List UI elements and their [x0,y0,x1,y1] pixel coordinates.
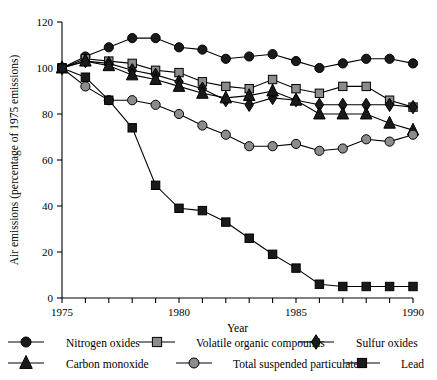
legend-item-label: Total suspended particulates [233,358,364,371]
data-point-marker [175,204,183,212]
legend-marker-icon [189,358,199,368]
data-point-marker [151,181,159,189]
y-axis-title: Air emissions (percentage of 1975 emissi… [8,55,21,266]
x-tick-label: 1975 [51,306,74,318]
data-point-marker [314,107,326,119]
data-point-marker [128,34,137,43]
legend-item-carbon-monoxide: Carbon monoxide [8,356,149,370]
legend-marker-icon [152,337,161,346]
y-tick-label: 80 [42,108,54,120]
legend-item-label: Sulfur oxides [356,337,418,349]
data-point-marker [338,59,347,68]
series-carbon-monoxide [56,54,419,135]
series-lead [58,64,417,291]
y-tick-label: 0 [48,292,54,304]
x-axis-ticks: 1975198019851990 [51,298,425,318]
legend-item-label: Lead [401,358,424,370]
y-tick-label: 60 [42,154,54,166]
data-point-marker [221,54,230,63]
data-point-marker [151,34,160,43]
chart-axes [62,22,413,298]
y-tick-label: 20 [42,246,54,258]
data-point-marker [339,282,347,290]
data-point-marker [384,116,396,128]
data-point-marker [292,85,300,93]
data-point-marker [385,54,394,63]
emissions-chart-figure: 0204060801001201975198019851990YearAir e… [0,0,437,380]
data-point-marker [174,109,183,118]
data-point-marker [128,124,136,132]
data-point-marker [362,282,370,290]
data-point-marker [198,121,207,130]
series-total-suspended-particulates [57,63,417,155]
data-point-marker [222,218,230,226]
data-point-marker [268,50,277,59]
data-point-marker [360,107,372,119]
data-point-marker [58,64,66,72]
y-tick-label: 40 [42,200,54,212]
legend-item-total-suspended-particulates: Total suspended particulates [176,358,364,371]
x-tick-label: 1985 [285,306,308,318]
data-point-marker [268,75,276,83]
data-point-marker [338,144,347,153]
data-point-marker [339,82,347,90]
data-point-marker [268,250,276,258]
series-line [62,68,413,287]
data-point-marker [104,43,113,52]
legend-item-label: Nitrogen oxides [66,337,140,350]
data-point-marker [409,282,417,290]
legend-marker-icon [21,337,31,347]
y-axis-ticks: 020406080100120 [37,16,63,304]
data-point-marker [385,137,394,146]
data-point-marker [105,96,113,104]
data-point-marker [408,130,417,139]
data-point-marker [174,43,183,52]
y-tick-label: 100 [37,62,54,74]
data-point-marker [291,139,300,148]
legend-marker-icon [20,356,33,369]
data-point-marker [151,100,160,109]
data-point-marker [221,130,230,139]
series-line [62,61,413,130]
data-point-marker [81,73,89,81]
data-point-marker [267,84,279,96]
data-point-marker [292,264,300,272]
legend-item-label: Carbon monoxide [66,358,149,370]
data-point-marker [291,57,300,66]
data-point-marker [315,146,324,155]
data-point-marker [385,282,393,290]
data-point-marker [198,206,206,214]
data-point-marker [245,52,254,61]
data-point-marker [81,82,90,91]
chart-legend: Nitrogen oxidesVolatile organic compound… [8,335,424,371]
data-point-marker [245,234,253,242]
air-emissions-line-chart: 0204060801001201975198019851990YearAir e… [0,0,437,380]
data-point-marker [362,54,371,63]
legend-item-nitrogen-oxides: Nitrogen oxides [8,337,140,350]
data-point-marker [245,142,254,151]
legend-item-sulfur-oxides: Sulfur oxides [298,335,418,350]
data-point-marker [222,82,230,90]
legend-item-label: Volatile organic compounds [196,337,325,350]
legend-item-volatile-organic-compounds: Volatile organic compounds [139,337,325,350]
data-point-marker [362,82,370,90]
series-line [62,68,413,151]
chart-series-group [56,34,419,291]
data-point-marker [315,89,323,97]
data-point-marker [315,280,323,288]
data-point-marker [268,142,277,151]
data-point-marker [128,96,137,105]
series-line [62,38,413,68]
data-point-marker [315,63,324,72]
data-point-marker [362,135,371,144]
data-point-marker [408,59,417,68]
x-tick-label: 1990 [402,306,425,318]
legend-marker-icon [357,358,366,367]
data-point-marker [337,107,349,119]
x-tick-label: 1980 [168,306,191,318]
data-point-marker [198,45,207,54]
x-axis-title: Year [227,322,248,334]
y-tick-label: 120 [37,16,54,28]
